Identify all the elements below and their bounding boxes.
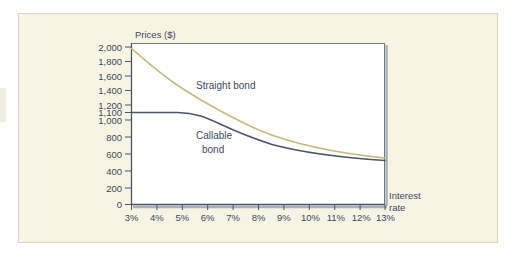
y-tick-label-0: 0 — [117, 199, 122, 210]
y-tick-label-1600: 1,600 — [98, 71, 122, 82]
y-tick-label-600: 600 — [106, 149, 122, 160]
series-label-callable-bond-line2: bond — [202, 144, 224, 155]
x-tick-label-4: 4% — [150, 212, 164, 223]
y-axis-ticks — [125, 47, 131, 205]
bond-price-chart: 2,000 1,800 1,600 1,400 1,200 1,100 1,00… — [0, 0, 517, 255]
x-tick-label-11: 11% — [327, 212, 346, 223]
y-tick-label-200: 200 — [106, 183, 122, 194]
x-axis-title-line2: rate — [389, 202, 405, 213]
x-tick-label-8: 8% — [252, 212, 266, 223]
y-tick-label-1400: 1,400 — [98, 85, 122, 96]
x-tick-label-5: 5% — [175, 212, 189, 223]
x-axis-tick-labels: 3% 4% 5% 6% 7% 8% 9% 10% 11% 12% 13% — [125, 212, 396, 223]
y-axis-tick-labels: 2,000 1,800 1,600 1,400 1,200 1,100 1,00… — [98, 42, 122, 211]
y-tick-label-400: 400 — [106, 166, 122, 177]
y-tick-label-2000: 2,000 — [98, 42, 122, 53]
x-tick-label-7: 7% — [226, 212, 240, 223]
y-tick-label-1800: 1,800 — [98, 56, 122, 67]
x-axis-title-line1: Interest — [389, 190, 421, 201]
x-tick-label-13: 13% — [376, 212, 396, 223]
x-tick-label-12: 12% — [352, 212, 372, 223]
series-label-straight-bond: Straight bond — [196, 80, 256, 91]
x-tick-label-10: 10% — [301, 212, 321, 223]
y-axis-title: Prices ($) — [135, 29, 176, 40]
series-label-callable-bond-line1: Callable — [196, 130, 233, 141]
y-tick-label-800: 800 — [106, 132, 122, 143]
y-tick-label-1000: 1,000 — [98, 115, 122, 126]
x-tick-label-6: 6% — [201, 212, 215, 223]
plot-area-background — [131, 43, 385, 205]
chart-svg: 2,000 1,800 1,600 1,400 1,200 1,100 1,00… — [0, 0, 517, 255]
x-tick-label-9: 9% — [277, 212, 291, 223]
x-tick-label-3: 3% — [125, 212, 139, 223]
